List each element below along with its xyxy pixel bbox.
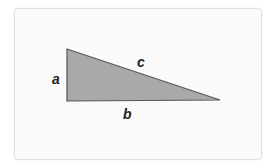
triangle-diagram: a c b bbox=[0, 0, 275, 166]
side-b-label: b bbox=[123, 106, 132, 122]
side-a-label: a bbox=[52, 71, 60, 87]
side-c-label: c bbox=[137, 54, 145, 70]
